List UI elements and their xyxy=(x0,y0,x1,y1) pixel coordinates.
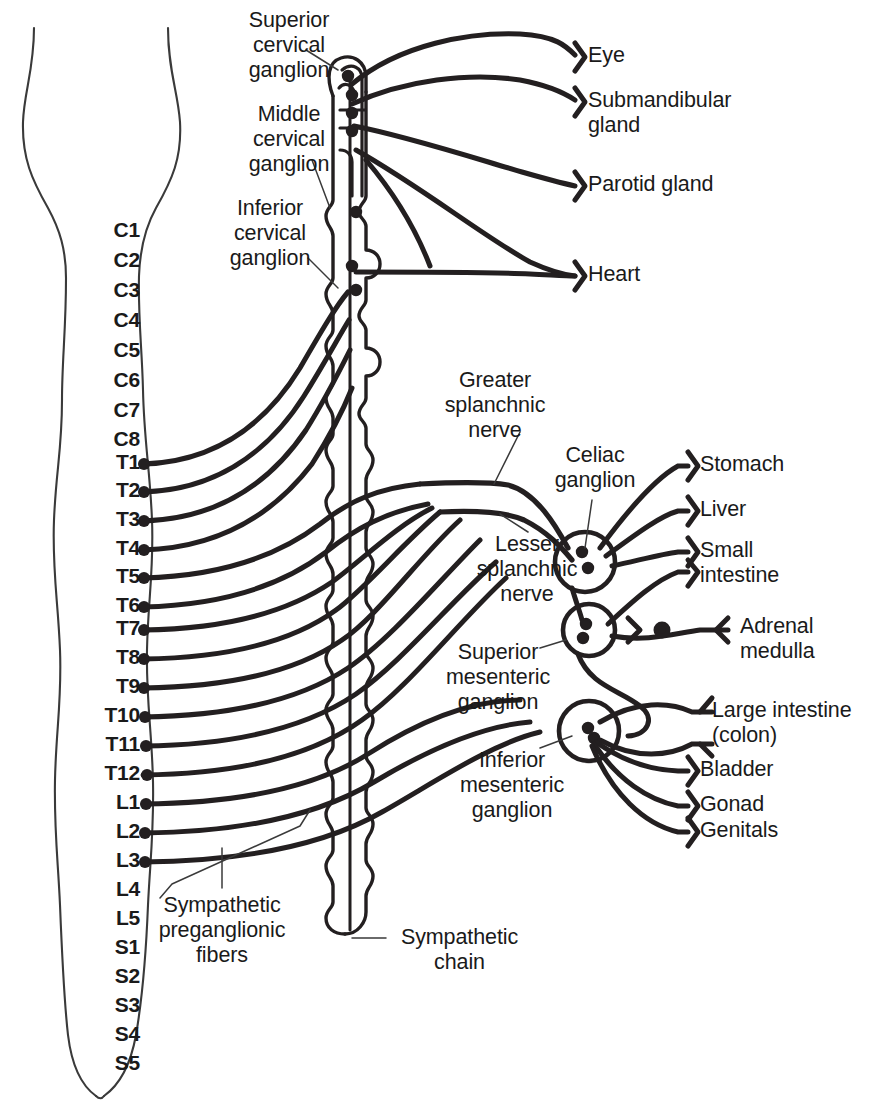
spinal-segment-label-c2: C2 xyxy=(78,248,140,272)
spinal-segment-label-t2: T2 xyxy=(78,478,140,502)
spinal-segment-label-t3: T3 xyxy=(78,507,140,531)
spinal-segment-label-s1: S1 xyxy=(78,935,140,959)
callout-celiac-ganglion: Celiac ganglion xyxy=(530,443,660,493)
spinal-segment-label-l5: L5 xyxy=(78,906,140,930)
spinal-segment-label-c3: C3 xyxy=(78,278,140,302)
organ-label-small-intestine: Small intestine xyxy=(700,538,779,588)
spinal-segment-label-t7: T7 xyxy=(78,616,140,640)
adrenal-medulla-node xyxy=(656,624,668,636)
terminal-large-intestine-a xyxy=(700,698,712,712)
spinal-segment-label-t11: T11 xyxy=(78,732,140,756)
organ-label-eye: Eye xyxy=(588,43,625,68)
callout-greater-splanchnic-nerve: Greater splanchnic nerve xyxy=(420,368,570,443)
spinal-segment-label-c7: C7 xyxy=(78,398,140,422)
leader-inferior-mesenteric-ganglion xyxy=(540,736,572,748)
callout-middle-cervical-ganglion: Middle cervical ganglion xyxy=(214,102,364,177)
callout-sympathetic-preganglionic-fibers: Sympathetic preganglionic fibers xyxy=(132,893,312,968)
spinal-segment-label-l4: L4 xyxy=(78,877,140,901)
organ-label-parotid-gland: Parotid gland xyxy=(588,172,713,197)
spinal-segment-label-s3: S3 xyxy=(78,993,140,1017)
spinal-segment-label-s2: S2 xyxy=(78,964,140,988)
spinal-segment-label-l3: L3 xyxy=(78,848,140,872)
postganglionic-head-fibers xyxy=(352,34,575,276)
callout-inferior-mesenteric-ganglion: Inferior mesenteric ganglion xyxy=(432,748,592,823)
diagram-canvas: C1C2C3C4C5C6C7C8T1T2T3T4T5T6T7T8T9T10T11… xyxy=(0,0,887,1112)
organ-label-adrenal-medulla: Adrenal medulla xyxy=(740,614,815,664)
callout-superior-cervical-ganglion: Superior cervical ganglion xyxy=(214,8,364,83)
organ-label-stomach: Stomach xyxy=(700,452,784,477)
callout-lesser-splanchnic-nerve: Lesser splanchnic nerve xyxy=(452,532,602,607)
organ-label-liver: Liver xyxy=(700,497,746,522)
spinal-segment-label-t12: T12 xyxy=(78,761,140,785)
terminal-large-intestine-b xyxy=(700,744,712,756)
spinal-segment-label-l1: L1 xyxy=(78,790,140,814)
spinal-segment-label-s4: S4 xyxy=(78,1022,140,1046)
organ-label-heart: Heart xyxy=(588,262,640,287)
organ-label-submandibular-gland: Submandibular gland xyxy=(588,88,731,138)
spinal-segment-label-t4: T4 xyxy=(78,536,140,560)
spinal-segment-label-c4: C4 xyxy=(78,308,140,332)
spinal-segment-label-t9: T9 xyxy=(78,674,140,698)
callout-superior-mesenteric-ganglion: Superior mesenteric ganglion xyxy=(418,640,578,715)
spinal-segment-label-t1: T1 xyxy=(78,450,140,474)
spinal-segment-label-l2: L2 xyxy=(78,819,140,843)
organ-label-large-intestine: Large intestine (colon) xyxy=(712,698,852,748)
spinal-segment-label-s5: S5 xyxy=(78,1051,140,1075)
spinal-segment-label-c6: C6 xyxy=(78,368,140,392)
spinal-segment-label-t6: T6 xyxy=(78,593,140,617)
callout-sympathetic-chain: Sympathetic chain xyxy=(382,925,537,975)
spinal-segment-label-t8: T8 xyxy=(78,645,140,669)
spinal-segment-label-t5: T5 xyxy=(78,564,140,588)
spinal-segment-label-c5: C5 xyxy=(78,338,140,362)
spinal-segment-label-c1: C1 xyxy=(78,218,140,242)
callout-inferior-cervical-ganglion: Inferior cervical ganglion xyxy=(195,196,345,271)
organ-label-bladder: Bladder xyxy=(700,757,773,782)
organ-label-genitals: Genitals xyxy=(700,818,778,843)
spinal-segment-label-c8: C8 xyxy=(78,427,140,451)
spinal-segment-label-t10: T10 xyxy=(78,703,140,727)
organ-label-gonad: Gonad xyxy=(700,792,764,817)
